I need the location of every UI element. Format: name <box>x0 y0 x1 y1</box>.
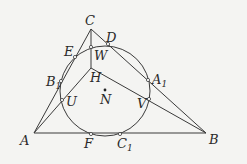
point-u <box>60 98 63 101</box>
point-w <box>89 45 92 48</box>
label-f: F <box>83 136 94 151</box>
label-w: W <box>94 48 109 63</box>
label-b: B <box>208 132 219 147</box>
label-c1: C1 <box>117 136 133 153</box>
label-e: E <box>63 44 74 59</box>
label-v: V <box>137 96 148 111</box>
label-h: H <box>89 70 102 85</box>
label-u: U <box>66 94 78 109</box>
label-b1: B1 <box>45 74 61 91</box>
point-e <box>73 55 76 58</box>
label-n: N <box>99 92 112 107</box>
label-a1: A1 <box>151 72 167 89</box>
point-v <box>147 97 150 100</box>
label-a: A <box>19 133 29 148</box>
center-n-dot <box>104 89 107 92</box>
label-c: C <box>85 13 95 28</box>
nine-point-circle-diagram: C D E W H B1 A1 U N V A B F C1 <box>0 0 247 164</box>
point-a1 <box>146 78 149 81</box>
label-d: D <box>105 30 117 45</box>
